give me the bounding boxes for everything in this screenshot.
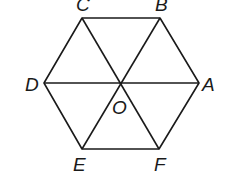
hexagon-diagram: C B D A O E F: [0, 0, 229, 191]
label-o: O: [112, 98, 127, 117]
label-c: C: [76, 0, 90, 14]
label-d: D: [25, 75, 39, 94]
hexagon-figure: [0, 0, 229, 191]
label-f: F: [154, 155, 166, 174]
label-b: B: [155, 0, 168, 14]
label-a: A: [202, 75, 215, 94]
label-e: E: [73, 155, 86, 174]
